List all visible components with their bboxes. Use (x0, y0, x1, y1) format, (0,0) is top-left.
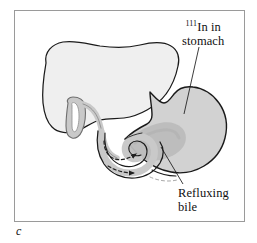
duodenum-distal-tail-faint (150, 177, 177, 181)
label-reflux-line2: bile (178, 200, 229, 214)
label-indium-line1-text: In in (197, 20, 221, 34)
label-refluxing-bile: Refluxing bile (178, 186, 229, 214)
superscript-111: 111 (185, 19, 197, 28)
label-indium-stomach: 111In in stomach (182, 20, 224, 48)
label-indium-line1: 111In in (182, 20, 224, 34)
figure-panel: 111In in stomach Refluxing bile c (0, 0, 257, 243)
label-reflux-line1: Refluxing (178, 186, 229, 200)
figure-caption-letter: c (16, 224, 21, 239)
label-indium-line2: stomach (182, 34, 224, 48)
gallbladder-lumen (72, 103, 79, 132)
